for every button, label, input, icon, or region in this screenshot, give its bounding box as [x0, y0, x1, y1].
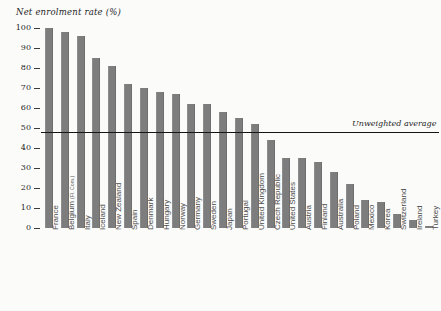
unweighted-average-label: Unweighted average	[352, 119, 436, 128]
x-axis-category-slot: Sweden	[199, 230, 215, 310]
x-axis-category-label: Portugal	[242, 200, 250, 230]
y-axis-tick-label: 0	[26, 224, 31, 232]
bar[interactable]	[92, 58, 100, 228]
x-axis-category-slot: France	[41, 230, 57, 310]
category-label-main: Belgium	[67, 199, 76, 230]
bar-slot	[215, 28, 231, 228]
bar-slot	[310, 28, 326, 228]
x-axis-category-label: France	[52, 205, 60, 230]
x-axis-category-slot: Poland	[342, 230, 358, 310]
x-axis-category-label: Poland	[353, 205, 361, 230]
y-axis-tick-mark	[34, 28, 40, 29]
x-axis-category-label: New Zealand	[115, 183, 123, 230]
x-axis-category-label: Czech Republic	[274, 174, 282, 230]
x-axis-category-label: Japan	[226, 208, 234, 230]
x-axis-category-label: Germany	[195, 197, 203, 230]
x-axis-category-label: Spain	[131, 210, 139, 230]
x-axis-category-label: United States	[290, 182, 298, 230]
x-axis-category-label: Denmark	[147, 198, 155, 230]
x-axis-category-slot: Japan	[215, 230, 231, 310]
bar[interactable]	[45, 28, 53, 228]
x-axis-category-label: Sweden	[210, 201, 218, 230]
bar-series	[41, 28, 437, 228]
x-axis-category-slot: Iceland	[88, 230, 104, 310]
y-axis-tick-mark	[34, 208, 40, 209]
x-axis-category-slot: Switzerland	[389, 230, 405, 310]
x-axis-category-label: Norway	[179, 203, 187, 230]
x-axis-category-slot: Denmark	[136, 230, 152, 310]
x-axis-category-slot: Italy	[73, 230, 89, 310]
x-axis-category-slot: Norway	[168, 230, 184, 310]
x-axis-category-label: Belgium (Fl. Com.)	[68, 176, 76, 230]
y-axis-tick-mark	[34, 48, 40, 49]
x-axis-category-label: Korea	[384, 209, 392, 230]
x-axis-category-slot: Mexico	[358, 230, 374, 310]
bar-slot	[168, 28, 184, 228]
y-axis-tick-mark	[34, 68, 40, 69]
x-axis-category-labels: FranceBelgium (Fl. Com.)ItalyIcelandNew …	[41, 230, 437, 310]
x-axis-category-label: Ireland	[416, 206, 424, 230]
x-axis-category-slot: Czech Republic	[263, 230, 279, 310]
y-axis-tick-label: 80	[21, 64, 31, 72]
y-axis-tick-mark	[34, 188, 40, 189]
x-axis-category-slot: Ireland	[405, 230, 421, 310]
x-axis-category-slot: Belgium (Fl. Com.)	[57, 230, 73, 310]
y-axis-tick-mark	[34, 168, 40, 169]
plot-area	[41, 28, 437, 228]
bar[interactable]	[124, 84, 132, 228]
x-axis-category-slot: Spain	[120, 230, 136, 310]
x-axis-category-slot: United Kingdom	[247, 230, 263, 310]
x-axis-category-label: Iceland	[100, 204, 108, 230]
y-axis-tick-label: 20	[21, 184, 31, 192]
x-axis-category-slot: Australia	[326, 230, 342, 310]
y-axis: 0102030405060708090100	[0, 28, 41, 228]
y-axis-tick-mark	[34, 148, 40, 149]
chart-figure: Net enrolment rate (%) 01020304050607080…	[0, 0, 441, 311]
x-axis-category-label: Austria	[305, 205, 313, 230]
x-axis-category-label: Australia	[337, 199, 345, 230]
y-axis-tick-label: 10	[21, 204, 31, 212]
category-label-qualifier: (Fl. Com.)	[69, 176, 75, 199]
y-axis-tick-label: 40	[21, 144, 31, 152]
y-axis-tick-label: 70	[21, 84, 31, 92]
x-axis-category-slot: Finland	[310, 230, 326, 310]
x-axis-category-label: Turkey	[432, 206, 440, 230]
y-axis-tick-label: 30	[21, 164, 31, 172]
x-axis-category-label: Switzerland	[400, 189, 408, 230]
x-axis-category-label: Finland	[321, 204, 329, 230]
x-axis-category-slot: Germany	[183, 230, 199, 310]
x-axis-category-slot: Hungary	[152, 230, 168, 310]
bar-slot	[231, 28, 247, 228]
x-axis-category-label: Mexico	[369, 205, 377, 230]
bar-slot	[41, 28, 57, 228]
y-axis-tick-label: 60	[21, 104, 31, 112]
x-axis-category-slot: Portugal	[231, 230, 247, 310]
unweighted-average-line	[41, 132, 439, 133]
x-axis-category-slot: New Zealand	[104, 230, 120, 310]
x-axis-category-slot: Korea	[373, 230, 389, 310]
bar-slot	[373, 28, 389, 228]
y-axis-tick-label: 100	[16, 24, 31, 32]
y-axis-tick-mark	[34, 88, 40, 89]
x-axis-category-slot: Turkey	[421, 230, 437, 310]
y-axis-tick-label: 50	[21, 124, 31, 132]
chart-axis-title: Net enrolment rate (%)	[16, 7, 121, 17]
y-axis-tick-mark	[34, 108, 40, 109]
y-axis-tick-mark	[34, 228, 40, 229]
bar-slot	[88, 28, 104, 228]
x-axis-category-label: United Kingdom	[258, 173, 266, 230]
x-axis-category-label: Italy	[84, 215, 92, 230]
x-axis-category-label: Hungary	[163, 200, 171, 230]
x-axis-category-slot: Austria	[294, 230, 310, 310]
bar-slot	[421, 28, 437, 228]
bar-slot	[358, 28, 374, 228]
y-axis-tick-label: 90	[21, 44, 31, 52]
y-axis-tick-mark	[34, 128, 40, 129]
x-axis-category-slot: United States	[278, 230, 294, 310]
